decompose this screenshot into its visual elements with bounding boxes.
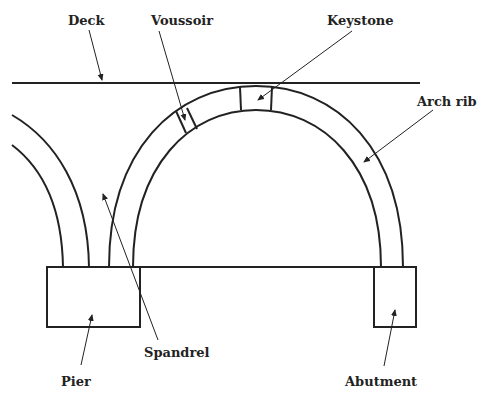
- label-deck: Deck: [68, 13, 105, 28]
- deck-arrow: [89, 30, 102, 80]
- arch-rib-arrow: [364, 110, 433, 162]
- pier-arrow: [81, 315, 92, 365]
- label-keystone: Keystone: [327, 13, 394, 28]
- voussoir-right-edge: [187, 108, 197, 129]
- keystone-arrow: [258, 31, 352, 100]
- label-spandrel: Spandrel: [144, 345, 210, 360]
- label-voussoir: Voussoir: [150, 13, 213, 28]
- voussoir-left-edge: [176, 111, 186, 133]
- left-arch-inner: [12, 145, 63, 267]
- label-arch-rib: Arch rib: [416, 94, 477, 109]
- abutment-arrow: [384, 310, 395, 366]
- arch-rib-inner: [133, 110, 381, 267]
- abutment-block: [374, 267, 416, 327]
- label-abutment: Abutment: [344, 374, 417, 389]
- label-pier: Pier: [61, 374, 91, 389]
- arch-bridge-diagram: Deck Voussoir Keystone Arch rib Spandrel…: [0, 0, 487, 399]
- voussoir-arrow: [159, 31, 185, 120]
- pier-block: [47, 267, 140, 327]
- left-arch-outer: [12, 115, 89, 267]
- keystone-left-edge: [240, 87, 241, 110]
